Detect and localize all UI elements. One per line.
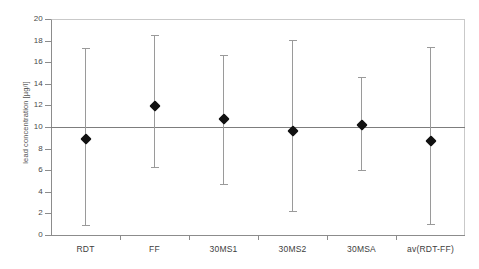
error-cap-upper <box>151 35 159 36</box>
y-tick-label: 16 <box>17 57 43 66</box>
y-tick-label: 6 <box>17 165 43 174</box>
y-tick <box>45 84 51 85</box>
error-cap-lower <box>151 167 159 168</box>
y-tick-label: 2 <box>17 208 43 217</box>
error-cap-upper <box>220 55 228 56</box>
x-tick <box>120 235 121 240</box>
y-tick <box>45 170 51 171</box>
y-tick-label: 20 <box>17 14 43 23</box>
y-tick <box>45 235 51 236</box>
y-tick-label: 14 <box>17 79 43 88</box>
y-tick <box>45 105 51 106</box>
y-tick <box>45 41 51 42</box>
reference-line <box>51 127 465 128</box>
error-cap-lower <box>358 170 366 171</box>
y-tick <box>45 192 51 193</box>
y-tick-label: 18 <box>17 36 43 45</box>
y-tick-label: 12 <box>17 100 43 109</box>
error-cap-lower <box>289 211 297 212</box>
error-cap-upper <box>289 40 297 41</box>
x-tick <box>396 235 397 240</box>
y-tick-label: 10 <box>17 122 43 131</box>
y-tick <box>45 62 51 63</box>
x-tick <box>258 235 259 240</box>
y-tick <box>45 19 51 20</box>
y-tick <box>45 213 51 214</box>
x-tick <box>189 235 190 240</box>
y-tick-label: 4 <box>17 187 43 196</box>
x-tick-label: av(RDT-FF) <box>386 244 476 254</box>
y-tick-label: 0 <box>17 230 43 239</box>
error-cap-upper <box>358 77 366 78</box>
error-cap-lower <box>82 225 90 226</box>
x-tick <box>327 235 328 240</box>
error-cap-upper <box>82 48 90 49</box>
y-tick-label: 8 <box>17 144 43 153</box>
chart-figure: lead concentration [µg/l] 02468101214161… <box>0 0 479 269</box>
error-cap-upper <box>427 47 435 48</box>
y-tick <box>45 149 51 150</box>
error-cap-lower <box>427 224 435 225</box>
error-cap-lower <box>220 184 228 185</box>
